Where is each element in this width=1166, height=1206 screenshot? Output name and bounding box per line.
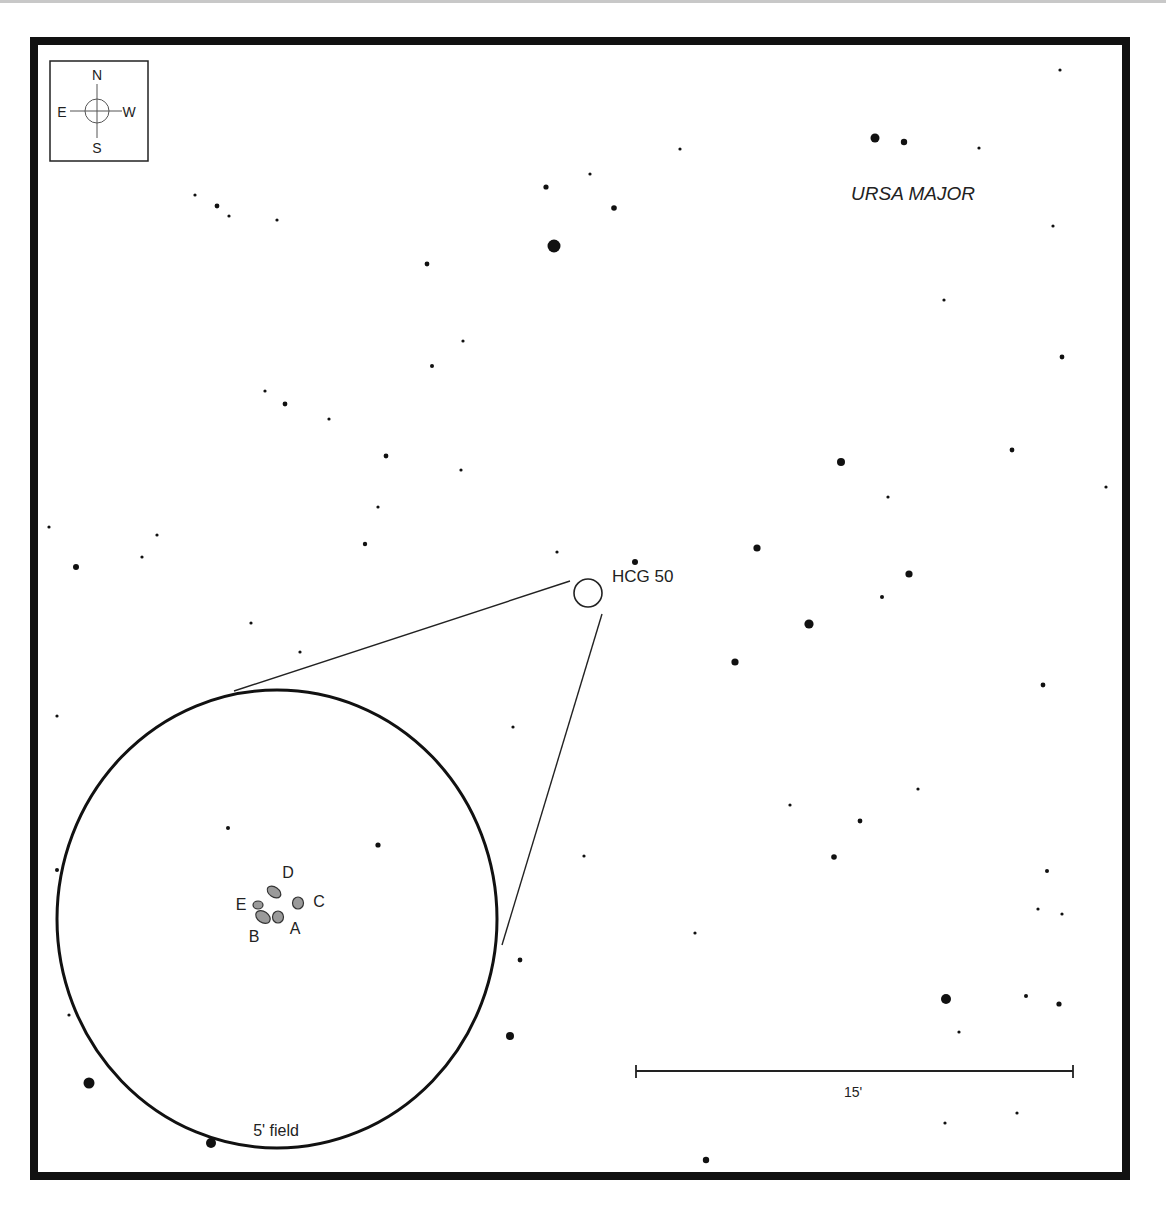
star <box>193 193 196 196</box>
object-label: HCG 50 <box>612 567 673 586</box>
star <box>1058 68 1061 71</box>
inset-star <box>226 826 230 830</box>
star <box>611 205 617 211</box>
star <box>957 1030 960 1033</box>
compass-east-label: E <box>57 104 66 120</box>
galaxy-d-label: D <box>282 864 294 881</box>
star <box>55 714 58 717</box>
star <box>1056 1001 1061 1006</box>
star <box>831 854 837 860</box>
star <box>858 819 863 824</box>
galaxy-c-label: C <box>313 893 325 910</box>
star <box>942 298 945 301</box>
field-size-label: 5' field <box>253 1122 299 1139</box>
star <box>327 417 330 420</box>
star <box>703 1157 709 1163</box>
star <box>632 559 638 565</box>
star <box>384 454 389 459</box>
star <box>731 658 738 665</box>
star <box>215 204 220 209</box>
finder-chart: N S E W URSA MAJOR HCG 50 D E C A B 5' f… <box>0 0 1166 1206</box>
star <box>905 570 912 577</box>
star <box>1036 907 1039 910</box>
star <box>84 1078 95 1089</box>
star <box>155 533 158 536</box>
galaxy-e-label: E <box>236 896 247 913</box>
star <box>1010 448 1015 453</box>
star <box>588 172 591 175</box>
star <box>461 339 464 342</box>
star <box>425 262 430 267</box>
scale-bar-label: 15' <box>844 1084 862 1100</box>
star <box>47 525 50 528</box>
galaxy-c <box>293 897 304 909</box>
star <box>901 139 907 145</box>
compass-north-label: N <box>92 67 102 83</box>
star <box>506 1032 514 1040</box>
star <box>140 555 143 558</box>
star <box>1015 1111 1018 1114</box>
star <box>227 214 230 217</box>
constellation-label: URSA MAJOR <box>851 183 975 204</box>
star <box>363 542 367 546</box>
star <box>298 650 301 653</box>
star <box>249 621 252 624</box>
star <box>55 868 59 872</box>
compass-south-label: S <box>92 140 101 156</box>
star <box>511 725 514 728</box>
object-marker-circle <box>574 579 602 607</box>
galaxy-e <box>253 901 263 909</box>
star <box>977 146 980 149</box>
star <box>886 495 889 498</box>
star <box>1060 355 1065 360</box>
star <box>1045 869 1049 873</box>
star <box>753 544 760 551</box>
star <box>263 389 266 392</box>
star <box>916 787 919 790</box>
star <box>1051 224 1054 227</box>
galaxy-a-label: A <box>290 920 301 937</box>
star <box>837 458 845 466</box>
galaxy-b-label: B <box>249 928 260 945</box>
star <box>871 134 880 143</box>
star <box>804 619 813 628</box>
star <box>283 402 288 407</box>
star <box>459 468 462 471</box>
star <box>67 1013 70 1016</box>
star <box>582 854 585 857</box>
star <box>1024 994 1028 998</box>
star <box>693 931 696 934</box>
inset-star <box>375 842 380 847</box>
star <box>1060 912 1063 915</box>
star <box>880 595 884 599</box>
star <box>430 364 434 368</box>
star <box>1041 683 1046 688</box>
compass-west-label: W <box>122 104 136 120</box>
star <box>555 550 558 553</box>
star <box>941 994 951 1004</box>
star <box>275 218 278 221</box>
star <box>1104 485 1107 488</box>
star <box>518 958 523 963</box>
star <box>788 803 791 806</box>
star <box>678 147 681 150</box>
star <box>543 184 548 189</box>
galaxy-a <box>273 911 284 923</box>
star <box>73 564 79 570</box>
star <box>943 1121 946 1124</box>
star <box>548 240 561 253</box>
star <box>376 505 379 508</box>
